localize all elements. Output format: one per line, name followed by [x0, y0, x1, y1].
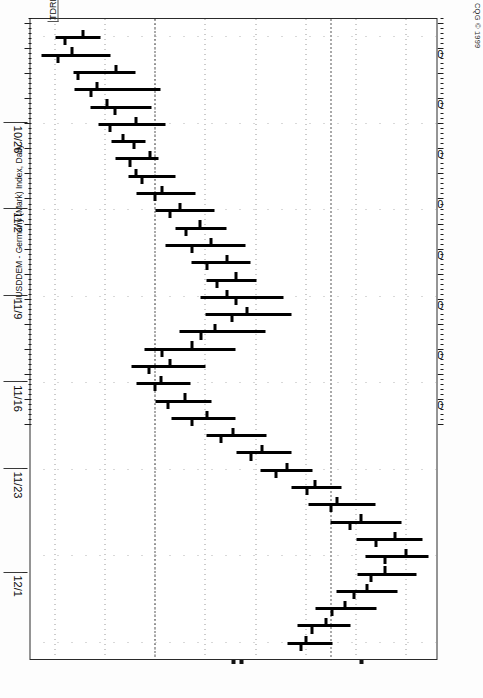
ohlc-range	[200, 296, 283, 299]
date-tick	[22, 122, 27, 123]
axis-tick	[28, 319, 31, 320]
ohlc-close-tick	[190, 419, 193, 426]
ohlc-close-tick	[168, 212, 171, 219]
ohlc-open-tick	[160, 186, 163, 193]
axis-tick	[440, 83, 443, 84]
ohlc-range	[136, 192, 195, 195]
axis-tick	[440, 178, 443, 179]
ohlc-range	[365, 555, 429, 558]
axis-tick	[437, 399, 443, 400]
ohlc-close-tick	[190, 247, 193, 254]
axis-tick	[440, 389, 443, 390]
axis-tick	[437, 324, 443, 325]
axis-tick	[28, 239, 31, 240]
ohlc-close-tick	[76, 74, 79, 81]
axis-tick	[440, 339, 443, 340]
price-gridline	[355, 19, 356, 659]
axis-tick	[28, 188, 31, 189]
vendor-watermark: CQG © 1999	[472, 3, 481, 48]
ohlc-open-tick	[225, 290, 228, 297]
axis-tick	[440, 88, 443, 89]
ohlc-range	[308, 503, 375, 506]
axis-tick	[28, 244, 31, 245]
ohlc-open-tick	[324, 618, 327, 625]
axis-tick	[28, 414, 31, 415]
axis-tick	[28, 289, 31, 290]
ohlc-close-tick	[184, 229, 187, 236]
axis-tick	[440, 158, 443, 159]
axis-tick	[28, 339, 31, 340]
axis-tick	[440, 93, 443, 94]
axis-tick	[28, 193, 31, 194]
axis-tick	[440, 214, 443, 215]
ohlc-range	[179, 330, 264, 333]
reference-line	[330, 19, 331, 659]
date-tick	[22, 468, 27, 469]
ohlc-open-tick	[198, 220, 201, 227]
axis-tick	[437, 424, 443, 425]
axis-tick	[440, 234, 443, 235]
axis-tick	[440, 364, 443, 365]
axis-tick	[440, 43, 443, 44]
axis-tick	[440, 309, 443, 310]
axis-tick	[437, 98, 443, 99]
ohlc-open-tick	[183, 393, 186, 400]
axis-tick	[440, 394, 443, 395]
ohlc-close-tick	[330, 610, 333, 617]
axis-tick	[28, 108, 31, 109]
ohlc-range	[136, 382, 190, 385]
rotated-chart-container: 1710017000169001680016700166001650016400…	[0, 0, 483, 698]
ohlc-close-tick	[348, 523, 351, 530]
ohlc-range	[55, 36, 100, 39]
axis-tick	[437, 123, 443, 124]
axis-tick	[440, 209, 443, 210]
axis-tick	[28, 204, 31, 205]
axis-tick	[28, 309, 31, 310]
time-gridline	[30, 123, 436, 124]
ohlc-open-tick	[335, 497, 338, 504]
axis-tick	[28, 28, 31, 29]
ohlc-close-tick	[234, 298, 237, 305]
axis-tick	[28, 183, 31, 184]
axis-tick	[28, 379, 31, 380]
ohlc-close-tick	[305, 489, 308, 496]
ohlc-open-tick	[168, 359, 171, 366]
ohlc-close-tick	[56, 56, 59, 63]
axis-tick	[440, 334, 443, 335]
ohlc-close-tick	[153, 195, 156, 202]
axis-tick	[440, 419, 443, 420]
ohlc-open-tick	[304, 636, 307, 643]
ohlc-range	[297, 624, 350, 627]
time-gridline	[30, 209, 436, 210]
ohlc-range	[206, 279, 256, 282]
axis-tick	[437, 299, 443, 300]
axis-tick	[440, 254, 443, 255]
axis-tick	[440, 329, 443, 330]
symbol-label: IUSDDEM - Germany (Mark) Index, Daily	[13, 145, 23, 300]
ohlc-close-tick	[89, 91, 92, 98]
chart-page: 1710017000169001680016700166001650016400…	[0, 0, 483, 698]
axis-tick	[437, 274, 443, 275]
ohlc-range	[165, 244, 245, 247]
axis-tick	[440, 354, 443, 355]
axis-tick	[28, 419, 31, 420]
axis-tick	[28, 38, 31, 39]
price-gridline	[54, 19, 55, 659]
ohlc-range	[90, 106, 151, 109]
ohlc-open-tick	[213, 324, 216, 331]
axis-tick	[440, 259, 443, 260]
axis-tick	[28, 359, 31, 360]
ohlc-range	[287, 642, 332, 645]
axis-tick	[437, 198, 443, 199]
axis-tick	[440, 68, 443, 69]
ohlc-close-tick	[199, 333, 202, 340]
axis-tick	[440, 63, 443, 64]
margin-mark	[359, 660, 363, 664]
ohlc-range	[356, 538, 422, 541]
ohlc-range	[155, 400, 211, 403]
axis-tick	[437, 349, 443, 350]
ohlc-open-tick	[134, 169, 137, 176]
time-gridline	[30, 642, 436, 643]
axis-tick	[440, 229, 443, 230]
axis-tick	[440, 414, 443, 415]
